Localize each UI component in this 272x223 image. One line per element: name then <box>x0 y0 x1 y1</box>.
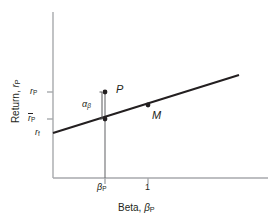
y-tick-label-r-f-subscript: f <box>38 130 40 137</box>
y-tick-label-r-p-bar: rP <box>28 114 35 124</box>
y-tick-label-r-p-bar-overbar: rP <box>28 114 35 124</box>
y-axis-title-subscript: P <box>13 79 22 84</box>
y-axis-title-variable: r <box>10 84 21 87</box>
y-tick-label-r-p-bar-subscript: P <box>31 116 35 123</box>
y-tick-label-r-p: rP <box>30 87 37 97</box>
y-tick-label-r-p-subscript: P <box>33 89 37 96</box>
point-marker-m <box>146 103 151 108</box>
y-tick-label-r-f: rf <box>35 128 40 138</box>
point-label-m: M <box>152 110 161 121</box>
y-axis-title-text: Return, <box>10 88 21 124</box>
point-marker-p <box>103 90 108 95</box>
alpha-beta-brace <box>100 92 103 119</box>
chart-canvas <box>0 0 272 223</box>
x-tick-label-beta-p: βP <box>97 183 106 193</box>
sml-chart-figure: Return, rP Beta, βP rP rP rf βP 1 P M αβ <box>0 0 272 223</box>
annotation-label-alpha-beta: αβ <box>82 100 91 110</box>
point-marker-beta-p-on-line <box>103 117 108 122</box>
point-label-p: P <box>116 84 123 95</box>
x-axis-title-text: Beta, <box>118 202 144 213</box>
y-axis-title: Return, rP <box>11 63 21 139</box>
x-axis-title-subscript: P <box>150 205 155 214</box>
x-tick-label-beta-p-subscript: P <box>102 185 106 192</box>
annotation-alpha-subscript: β <box>87 102 91 109</box>
x-tick-label-one: 1 <box>145 183 150 192</box>
x-axis-title: Beta, βP <box>118 203 155 213</box>
